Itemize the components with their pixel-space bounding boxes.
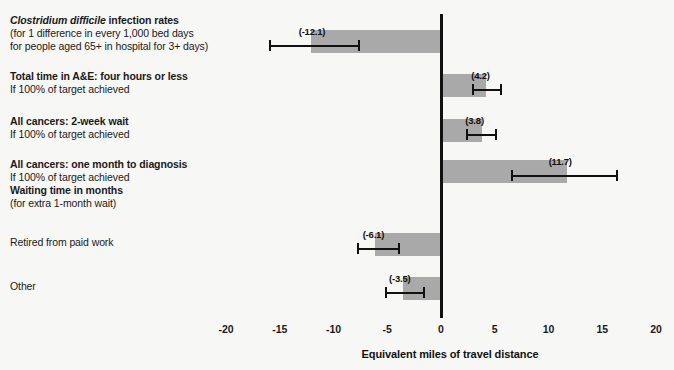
error-bar-line: [472, 89, 502, 91]
chart-container: Clostridium difficile infection rates (f…: [0, 0, 674, 370]
error-bar-cap-right: [500, 84, 502, 95]
value-label-cancer-month: (11.7): [549, 156, 572, 167]
x-tick-20: 20: [650, 323, 662, 335]
x-tick-neg10: -10: [326, 323, 341, 335]
x-axis: -20-15-10-505101520 Equivalent miles of …: [0, 318, 674, 370]
x-axis-title: Equivalent miles of travel distance: [0, 348, 674, 360]
error-bar-line: [466, 134, 497, 136]
x-tick-0: 0: [438, 323, 444, 335]
value-label-other: (-3.5): [389, 273, 411, 284]
x-tick-10: 10: [543, 323, 555, 335]
x-tick-neg5: -5: [383, 323, 392, 335]
value-label-ae: (4.2): [471, 70, 490, 81]
value-label-cancer-2week: (3.8): [465, 115, 484, 126]
x-tick-5: 5: [492, 323, 498, 335]
error-bar-line: [269, 45, 360, 47]
error-bar-cancer-month: [511, 170, 619, 181]
error-bar-ae: [472, 84, 502, 95]
error-bar-cap-left: [511, 170, 513, 181]
value-label-cdiff: (-12.1): [299, 26, 326, 37]
error-bar-cap-left: [357, 243, 359, 254]
error-bar-cap-right: [616, 170, 618, 181]
plot-area: (-12.1) (4.2) (3.8) (11.7) (-6.1) (-3.5): [0, 0, 674, 318]
error-bar-line: [511, 175, 619, 177]
error-bar-line: [385, 292, 425, 294]
error-bar-cap-right: [398, 243, 400, 254]
error-bar-cap-left: [269, 40, 271, 51]
error-bar-cap-left: [472, 84, 474, 95]
error-bar-cdiff: [269, 40, 360, 51]
x-tick-neg15: -15: [272, 323, 287, 335]
error-bar-cap-right: [358, 40, 360, 51]
x-axis-title-text: Equivalent miles of travel distance: [136, 348, 539, 360]
error-bar-cap-right: [423, 287, 425, 298]
error-bar-cap-left: [385, 287, 387, 298]
x-tick-15: 15: [596, 323, 608, 335]
error-bar-retired: [357, 243, 400, 254]
error-bar-line: [357, 248, 400, 250]
error-bar-cancer-2week: [466, 129, 497, 140]
x-tick-neg20: -20: [218, 323, 233, 335]
error-bar-other: [385, 287, 425, 298]
zero-reference-line: [440, 14, 443, 318]
error-bar-cap-left: [466, 129, 468, 140]
value-label-retired: (-6.1): [363, 229, 385, 240]
error-bar-cap-right: [495, 129, 497, 140]
